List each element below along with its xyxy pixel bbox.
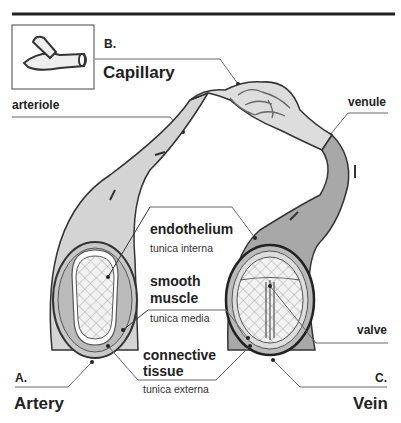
label-tunica-externa: tunica externa — [143, 383, 209, 395]
label-arteriole: arteriole — [12, 98, 59, 112]
label-connective: connective — [143, 347, 216, 363]
vein-cross-section — [226, 245, 314, 355]
label-smooth: smooth — [150, 273, 201, 289]
artery-cross-section — [53, 242, 137, 358]
label-b: B. — [104, 37, 116, 51]
label-artery: Artery — [14, 394, 64, 414]
label-valve: valve — [357, 323, 387, 337]
label-endothelium: endothelium — [150, 221, 233, 237]
label-tissue: tissue — [143, 363, 183, 379]
label-muscle: muscle — [150, 290, 198, 306]
label-capillary: Capillary — [103, 63, 175, 83]
label-venule: venule — [348, 95, 386, 109]
label-tunica-interna: tunica interna — [150, 242, 213, 254]
label-vein: Vein — [353, 394, 388, 414]
label-a: A. — [15, 371, 27, 385]
label-c: C. — [375, 371, 387, 385]
label-tunica-media: tunica media — [150, 312, 210, 324]
